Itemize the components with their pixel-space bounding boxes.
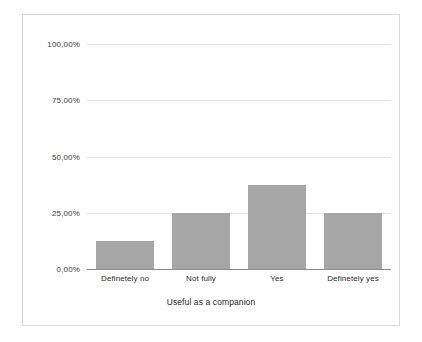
ytick-label-25: 25,00% (52, 208, 80, 217)
xaxis-title: Useful as a companion (23, 297, 399, 307)
ytick-label-0: 0,00% (57, 265, 80, 274)
ytick-label-75: 75,00% (52, 96, 80, 105)
bar-slot-not-fully: Not fully (163, 44, 239, 269)
xtick-label-not-fully: Not fully (163, 274, 239, 283)
bar-not-fully[interactable] (172, 213, 230, 269)
ytick-label-50: 50,00% (52, 152, 80, 161)
bar-series: Definetely no Not fully Yes Definetely y… (87, 44, 391, 269)
xtick-label-definetely-yes: Definetely yes (315, 274, 391, 283)
axis-line-zero: 0,00% (87, 269, 391, 270)
chart-figure: 100,00% 75,00% 50,00% 25,00% 0,00% Defin… (0, 0, 422, 342)
bar-slot-definetely-no: Definetely no (87, 44, 163, 269)
plot-area: 100,00% 75,00% 50,00% 25,00% 0,00% Defin… (87, 44, 391, 269)
bar-definetely-no[interactable] (96, 241, 154, 269)
bar-slot-definetely-yes: Definetely yes (315, 44, 391, 269)
xtick-label-yes: Yes (239, 274, 315, 283)
xtick-label-definetely-no: Definetely no (87, 274, 163, 283)
bar-yes[interactable] (248, 185, 306, 269)
ytick-label-100: 100,00% (47, 40, 80, 49)
bar-definetely-yes[interactable] (324, 213, 382, 269)
bar-slot-yes: Yes (239, 44, 315, 269)
chart-frame: 100,00% 75,00% 50,00% 25,00% 0,00% Defin… (22, 14, 400, 326)
